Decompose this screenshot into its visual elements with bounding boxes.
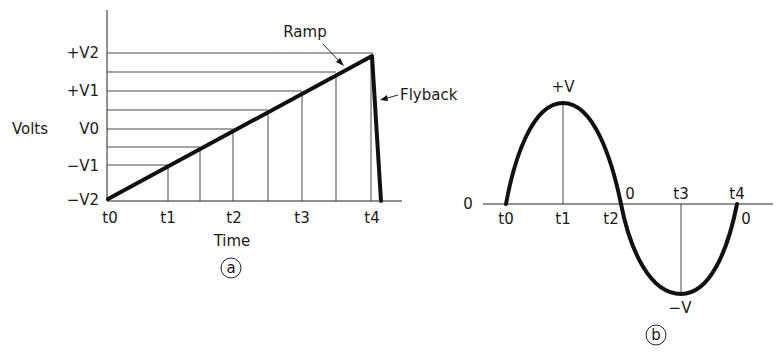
zero-level-label: 0 <box>463 195 473 213</box>
peak-label: +V <box>552 78 576 96</box>
y-tick-label: −V2 <box>67 191 99 209</box>
panel-b-tag: b <box>646 325 666 345</box>
ramp-pointer-arrow <box>323 44 344 66</box>
trough-label: −V <box>669 299 693 317</box>
panel-a-tag: a <box>221 258 241 278</box>
x-tick-label: t0 <box>498 210 513 228</box>
panel-b-sine-diagram: 0 +V −V 0 0 t0 t1 t2 t3 t4 b <box>463 78 773 345</box>
y-tick-label: −V1 <box>67 157 99 175</box>
y-axis-title: Volts <box>12 120 48 138</box>
x-tick-label: t3 <box>673 185 688 203</box>
vertical-gridlines <box>168 55 371 201</box>
x-tick-label: t4 <box>364 209 379 227</box>
ramp-waveform <box>108 56 381 201</box>
x-tick-label: t1 <box>160 209 175 227</box>
x-tick-label: t2 <box>603 210 618 228</box>
y-tick-label: +V1 <box>67 82 99 100</box>
y-tick-label: V0 <box>79 120 99 138</box>
sine-waveform <box>506 103 737 294</box>
svg-text:b: b <box>651 326 661 344</box>
waveform-figure: Ramp Flyback Volts +V2 +V1 V0 −V1 −V2 t0… <box>0 0 778 360</box>
ramp-label: Ramp <box>283 23 326 41</box>
y-tick-label: +V2 <box>67 44 99 62</box>
panel-a-ramp-diagram: Ramp Flyback Volts +V2 +V1 V0 −V1 −V2 t0… <box>12 10 458 278</box>
x-axis-title: Time <box>213 232 251 250</box>
x-tick-label: t3 <box>294 209 309 227</box>
x-tick-label: t2 <box>226 209 241 227</box>
zero-crossing-label: 0 <box>625 185 635 203</box>
flyback-pointer-arrow <box>380 95 398 101</box>
x-tick-label: t1 <box>555 210 570 228</box>
svg-text:a: a <box>226 259 235 277</box>
flyback-label: Flyback <box>400 86 458 104</box>
x-tick-label: t0 <box>102 209 117 227</box>
x-tick-label: t4 <box>729 185 744 203</box>
zero-crossing-label: 0 <box>741 210 751 228</box>
horizontal-gridlines <box>107 53 373 165</box>
